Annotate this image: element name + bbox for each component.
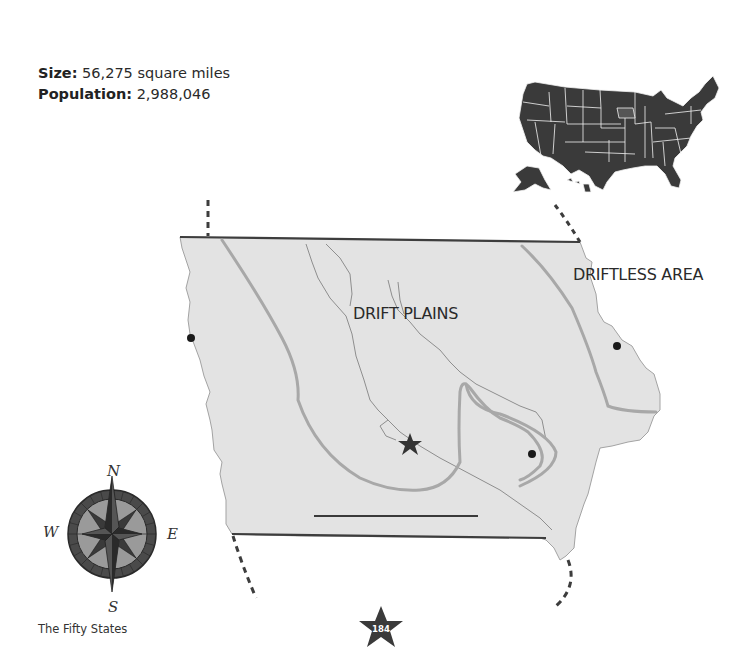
city-marker: [528, 450, 536, 458]
dashed-border-se: [556, 560, 571, 606]
page-number: 184: [357, 623, 405, 634]
city-marker: [613, 342, 621, 350]
compass-icon: [28, 462, 178, 607]
dashed-border-sw: [233, 536, 256, 598]
region-label-driftless-area: DRIFTLESS AREA: [573, 265, 703, 284]
region-label-drift-plains: DRIFT PLAINS: [353, 304, 458, 323]
dashed-border-ne: [555, 205, 580, 242]
city-marker: [187, 334, 195, 342]
book-title: The Fifty States: [38, 622, 127, 636]
